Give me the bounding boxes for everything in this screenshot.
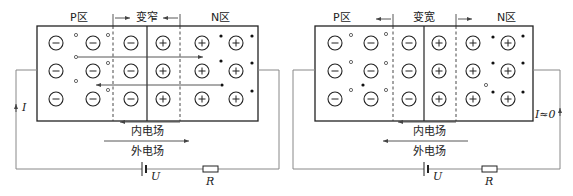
n-region-label: N区: [211, 11, 230, 24]
resistor-icon: [203, 166, 218, 172]
current-label: I: [21, 101, 27, 114]
p-region-label: P区: [70, 11, 88, 24]
pn-junction-figure: P区 变窄 N区: [0, 0, 573, 196]
depletion-label: 变宽: [413, 10, 435, 24]
resistor-icon: [482, 166, 497, 172]
negative-ions: [328, 36, 416, 106]
inner-field-label: 内电场: [413, 124, 446, 138]
outer-field-label: 外电场: [131, 144, 164, 158]
battery-icon: [142, 162, 146, 176]
p-region-label: P区: [333, 11, 351, 24]
battery-icon: [424, 162, 428, 176]
circuit-wire-left: [293, 70, 424, 169]
inner-field-label: 内电场: [131, 124, 164, 138]
positive-ions: [432, 36, 515, 106]
right-diagram-reverse-bias: P区 变宽 N区: [293, 10, 560, 188]
resistor-label: R: [484, 175, 493, 188]
negative-ions: [49, 36, 138, 106]
battery-label: U: [151, 170, 161, 183]
current-label: I≈0: [534, 108, 556, 121]
left-diagram-forward-bias: P区 变窄 N区: [16, 10, 279, 188]
outer-field-label: 外电场: [413, 144, 446, 158]
depletion-label: 变窄: [136, 10, 158, 24]
circuit-wire-right: [218, 70, 279, 169]
battery-label: U: [433, 170, 443, 183]
n-region-label: N区: [497, 11, 516, 24]
resistor-label: R: [205, 175, 214, 188]
positive-ions: [156, 36, 243, 106]
